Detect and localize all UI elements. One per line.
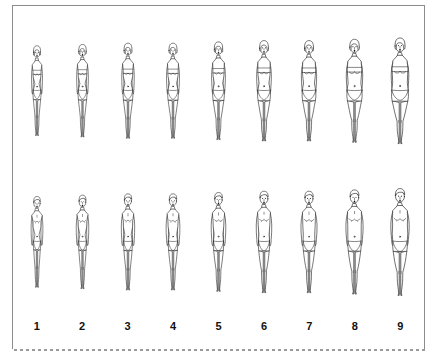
male-figure-row [14,166,423,316]
female-figure-7[interactable] [287,20,332,160]
male-figure-7[interactable] [287,166,332,316]
female-body-silhouette-4 [155,20,191,160]
figures-area [14,8,423,347]
scale-number-8[interactable]: 8 [332,316,377,336]
panel-border-left [12,5,13,349]
female-figure-1[interactable] [14,20,59,160]
male-figure-8[interactable] [332,166,377,316]
male-body-silhouette-8 [335,166,374,316]
scale-number-3[interactable]: 3 [105,316,150,336]
scale-number-5[interactable]: 5 [196,316,241,336]
panel-border-right [424,5,425,349]
scale-number-9[interactable]: 9 [378,316,423,336]
figure-rating-scale-panel: 123456789 [0,0,433,355]
female-body-silhouette-1 [20,20,54,160]
scale-number-2[interactable]: 2 [59,316,104,336]
male-figure-2[interactable] [59,166,104,316]
female-figure-4[interactable] [150,20,195,160]
male-body-silhouette-5 [200,166,237,316]
scale-number-7[interactable]: 7 [287,316,332,336]
scale-number-row: 123456789 [14,316,423,336]
female-figure-2[interactable] [59,20,104,160]
male-figure-1[interactable] [14,166,59,316]
male-figure-3[interactable] [105,166,150,316]
female-figure-9[interactable] [378,20,423,160]
female-body-silhouette-6 [245,20,283,160]
male-body-silhouette-4 [155,166,191,316]
male-figure-9[interactable] [378,166,423,316]
female-body-silhouette-2 [65,20,100,160]
female-body-silhouette-8 [335,20,374,160]
female-figure-row [14,20,423,160]
female-body-silhouette-7 [290,20,328,160]
scale-number-1[interactable]: 1 [14,316,59,336]
male-figure-4[interactable] [150,166,195,316]
female-figure-5[interactable] [196,20,241,160]
male-body-silhouette-7 [290,166,328,316]
male-figure-5[interactable] [196,166,241,316]
female-body-silhouette-3 [110,20,146,160]
male-figure-6[interactable] [241,166,286,316]
panel-border-top [12,5,425,6]
scale-number-6[interactable]: 6 [241,316,286,336]
male-body-silhouette-3 [110,166,146,316]
female-body-silhouette-5 [200,20,237,160]
male-body-silhouette-1 [20,166,54,316]
female-body-silhouette-9 [380,20,420,160]
panel-border-bottom-dashed [14,349,425,351]
scale-number-4[interactable]: 4 [150,316,195,336]
male-body-silhouette-2 [65,166,100,316]
male-body-silhouette-9 [380,166,420,316]
female-figure-3[interactable] [105,20,150,160]
female-figure-6[interactable] [241,20,286,160]
female-figure-8[interactable] [332,20,377,160]
male-body-silhouette-6 [245,166,283,316]
